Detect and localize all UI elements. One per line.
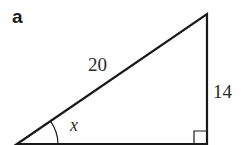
angle-arc xyxy=(51,121,59,144)
angle-label: x xyxy=(69,115,78,135)
part-label: a xyxy=(12,6,23,27)
triangle-diagram: a 20 14 x xyxy=(0,0,241,145)
hypotenuse-label: 20 xyxy=(88,54,107,75)
right-triangle xyxy=(17,14,207,144)
vertical-side-label: 14 xyxy=(213,81,233,102)
right-angle-marker xyxy=(194,131,207,144)
